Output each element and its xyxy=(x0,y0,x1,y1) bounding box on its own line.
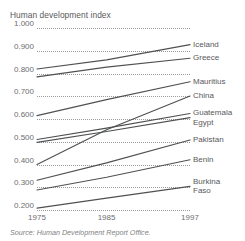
series-label-line: Burkina xyxy=(193,177,220,186)
y-tick-label: 0.900 xyxy=(14,42,34,51)
series-label-greece: Greece xyxy=(193,53,219,62)
series-label-line: China xyxy=(193,91,214,100)
series-line-iceland xyxy=(37,45,190,69)
source-note: Source: Human Development Report Office. xyxy=(10,228,151,237)
series-line-burkina-faso xyxy=(37,186,190,208)
y-tick-label: 0.500 xyxy=(14,133,34,142)
series-label-line: Benin xyxy=(193,155,213,164)
human-development-index-chart: Human development index 1.0000.9000.8000… xyxy=(0,0,245,241)
series-line-mauritius xyxy=(37,82,190,116)
plot-area xyxy=(37,28,190,210)
y-tick-label: 0.300 xyxy=(14,178,34,187)
series-label-line: Guatemala xyxy=(193,108,232,117)
series-label-mauritius: Mauritius xyxy=(193,77,225,86)
series-label-burkina-faso: BurkinaFaso xyxy=(193,177,220,195)
series-label-line: Pakistan xyxy=(193,135,224,144)
series-line-guatemala xyxy=(37,114,190,140)
y-tick-label: 0.400 xyxy=(14,156,34,165)
x-axis-tick-labels: 197519851997 xyxy=(37,213,190,227)
series-name-labels: IcelandGreeceMauritiusChinaGuatemalaEgyp… xyxy=(193,0,245,215)
series-line-egypt xyxy=(37,118,190,143)
series-label-china: China xyxy=(193,91,214,100)
y-tick-label: 1.000 xyxy=(14,19,34,28)
series-label-line: Egypt xyxy=(193,118,213,127)
y-axis-tick-labels: 1.0000.9000.8000.7000.6000.5000.4000.300… xyxy=(0,28,34,210)
series-label-pakistan: Pakistan xyxy=(193,135,224,144)
y-tick-label: 0.700 xyxy=(14,87,34,96)
series-label-egypt: Egypt xyxy=(193,118,213,127)
gridline xyxy=(37,210,190,211)
series-label-line: Greece xyxy=(193,53,219,62)
series-label-guatemala: Guatemala xyxy=(193,108,232,117)
series-lines xyxy=(37,28,190,210)
y-tick-label: 0.800 xyxy=(14,65,34,74)
series-label-line: Iceland xyxy=(193,40,219,49)
x-tick-label: 1985 xyxy=(98,213,116,222)
series-label-benin: Benin xyxy=(193,155,213,164)
y-tick-label: 0.600 xyxy=(14,110,34,119)
series-label-iceland: Iceland xyxy=(193,40,219,49)
x-tick-label: 1975 xyxy=(28,213,46,222)
series-label-line: Mauritius xyxy=(193,77,225,86)
series-line-pakistan xyxy=(37,140,190,180)
series-label-line: Faso xyxy=(193,186,220,195)
y-tick-label: 0.200 xyxy=(14,201,34,210)
series-line-greece xyxy=(37,58,190,77)
